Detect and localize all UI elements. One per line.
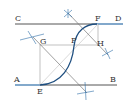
- label-a: A: [13, 75, 20, 84]
- construction-diagram: C F D G P H A B E: [0, 0, 129, 109]
- label-e: E: [37, 87, 43, 96]
- label-f: F: [95, 14, 101, 23]
- label-c: C: [15, 14, 21, 23]
- label-d: D: [115, 14, 121, 23]
- arc-mark-h: [102, 48, 113, 59]
- label-p: P: [71, 36, 77, 45]
- label-h: H: [97, 39, 104, 48]
- line-ef: [40, 24, 98, 85]
- arc-mark-top: [64, 9, 72, 18]
- label-g: G: [40, 37, 46, 46]
- label-b: B: [110, 75, 116, 84]
